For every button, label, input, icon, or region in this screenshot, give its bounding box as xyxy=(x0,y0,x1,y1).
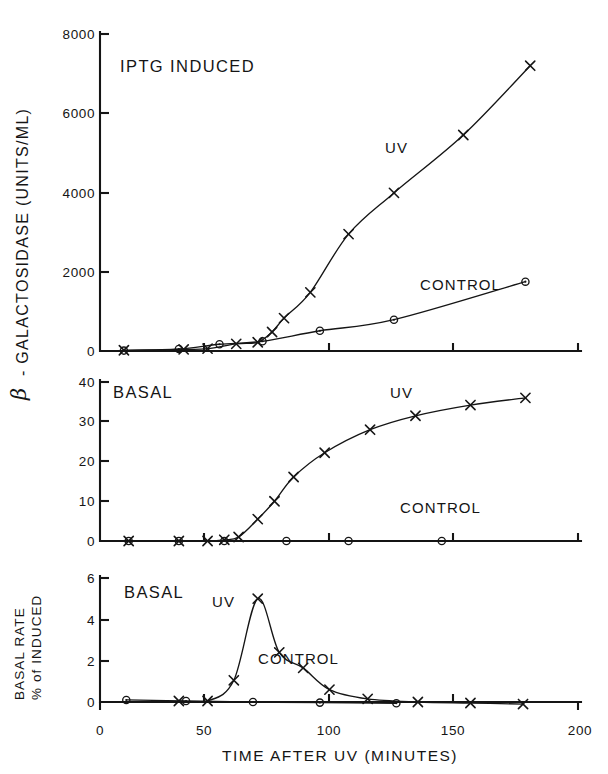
data-point-marker-x xyxy=(459,130,468,139)
data-point-marker-x xyxy=(270,497,279,506)
y-axis-title-bottom-line2: % of INDUCED xyxy=(29,595,44,700)
panel-iptg-induced: 8000 6000 4000 2000 0 IPTG INDUCED UV CO… xyxy=(63,27,581,359)
panel3-ytick-2: 2 xyxy=(87,654,95,669)
panel1-series-label-uv: UV xyxy=(385,139,408,156)
y-axis-title-bottom-line1: BASAL RATE xyxy=(12,607,27,700)
panel-basal-rate: 6 4 2 0 BASAL UV CONTROL 0 50 100 150 20… xyxy=(87,571,592,764)
panel2-y-tick-labels: 40 30 20 10 0 xyxy=(79,375,95,549)
xtick-200: 200 xyxy=(568,723,592,738)
panel3-series-label-control: CONTROL xyxy=(258,650,339,667)
panel2-ytick-10: 10 xyxy=(79,494,95,509)
data-point-marker-x xyxy=(253,515,262,524)
data-point-marker-x xyxy=(306,288,315,297)
data-point-marker-x xyxy=(365,425,374,434)
data-point-marker-x xyxy=(229,676,238,685)
chart-canvas: β - GALACTOSIDASE (UNITS/ML) BASAL RATE … xyxy=(0,0,608,774)
panel2-ytick-20: 20 xyxy=(79,454,95,469)
data-point-marker-x xyxy=(526,61,535,70)
panel2-axis-lines xyxy=(100,380,581,541)
panel3-series-label-uv: UV xyxy=(212,593,235,610)
panel2-x-ticks xyxy=(204,533,578,541)
panel1-ytick-2000: 2000 xyxy=(63,265,95,280)
y-axis-title-text: - GALACTOSIDASE (UNITS/ML) xyxy=(14,108,31,376)
panel1-y-tick-labels: 8000 6000 4000 2000 0 xyxy=(63,27,95,359)
data-point-marker-x xyxy=(279,314,288,323)
panel1-y-ticks xyxy=(100,34,109,272)
figure-root: β - GALACTOSIDASE (UNITS/ML) BASAL RATE … xyxy=(0,0,608,774)
series-curve-uv xyxy=(124,66,530,351)
panel1-ytick-4000: 4000 xyxy=(63,186,95,201)
panel3-ytick-6: 6 xyxy=(87,571,95,586)
panel1-ytick-6000: 6000 xyxy=(63,106,95,121)
panel1-axis-lines xyxy=(100,32,581,351)
panel2-ytick-40: 40 xyxy=(79,375,95,390)
panel1-series-label-control: CONTROL xyxy=(420,276,501,293)
panel3-series-uv xyxy=(174,594,527,709)
data-point-marker-x xyxy=(267,327,276,336)
xtick-150: 150 xyxy=(441,723,465,738)
panel2-ytick-30: 30 xyxy=(79,414,95,429)
data-point-marker-x xyxy=(289,472,298,481)
panel2-ytick-0: 0 xyxy=(87,534,95,549)
panel1-series-uv xyxy=(119,61,535,355)
panel1-title: IPTG INDUCED xyxy=(120,57,255,75)
y-axis-title-beta-glyph: β xyxy=(7,388,31,401)
y-axis-title-bottom: BASAL RATE % of INDUCED xyxy=(12,595,44,700)
panel2-series-label-uv: UV xyxy=(390,384,413,401)
data-point-marker-x xyxy=(411,411,420,420)
xtick-100: 100 xyxy=(317,723,341,738)
data-point-marker-x xyxy=(389,188,398,197)
data-point-marker-o xyxy=(522,278,529,285)
series-curve-uv xyxy=(179,598,523,704)
panel-basal-units: 40 30 20 10 0 BASAL UV CONTROL xyxy=(79,375,581,549)
panel1-ytick-0: 0 xyxy=(87,344,95,359)
y-axis-title-main: β - GALACTOSIDASE (UNITS/ML) xyxy=(7,108,31,401)
panel3-y-tick-labels: 6 4 2 0 xyxy=(87,571,95,710)
panel2-series-control xyxy=(125,537,445,544)
xtick-0: 0 xyxy=(96,723,104,738)
panel3-y-ticks xyxy=(100,578,109,661)
x-axis-title: TIME AFTER UV (MINUTES) xyxy=(222,747,458,764)
panel3-title: BASAL xyxy=(124,583,184,601)
panel1-ytick-8000: 8000 xyxy=(63,27,95,42)
data-point-marker-x xyxy=(344,230,353,239)
panel2-series-uv xyxy=(124,393,530,545)
panel2-title: BASAL xyxy=(113,383,173,401)
panel2-series-label-control: CONTROL xyxy=(400,499,481,516)
series-curve-uv xyxy=(129,398,526,541)
panel3-ytick-0: 0 xyxy=(87,695,95,710)
panel2-y-ticks xyxy=(100,382,109,501)
xtick-50: 50 xyxy=(196,723,212,738)
x-axis-tick-labels: 0 50 100 150 200 xyxy=(96,723,592,738)
data-point-marker-x xyxy=(320,448,329,457)
data-point-marker-x xyxy=(325,685,334,694)
panel3-ytick-4: 4 xyxy=(87,613,95,628)
